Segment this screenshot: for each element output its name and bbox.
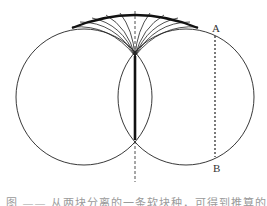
label-b: B [213,162,220,174]
figure-caption: 图 —— 从两块分离的一条软块种，可得到推算的 [6,196,266,206]
diagram: A B [0,0,267,206]
label-a: A [212,22,220,34]
fan-curves [72,13,198,56]
